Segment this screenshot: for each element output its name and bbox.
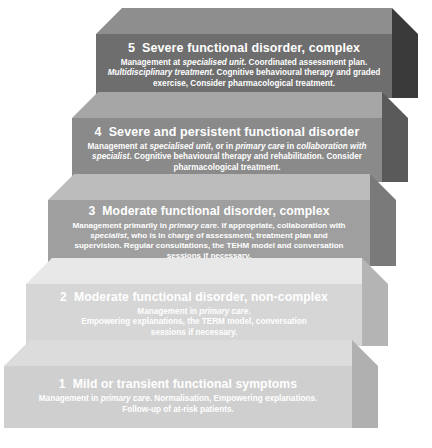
- step-5-front-face: 5Severe functional disorder, complex Man…: [96, 34, 392, 98]
- step-3-body: Management primarily in primary care. If…: [73, 221, 346, 261]
- step-5-body: Management at specialised unit. Coordina…: [108, 58, 381, 89]
- step-2-title-text: Moderate functional disorder, non-comple…: [74, 290, 328, 304]
- step-1-number: 1: [59, 377, 66, 391]
- step-3-top-face: [48, 174, 370, 200]
- step-4-title-text: Severe and persistent functional disorde…: [109, 125, 360, 139]
- step-2-title: 2Moderate functional disorder, non-compl…: [60, 290, 328, 304]
- step-4-side-face: [382, 92, 408, 182]
- step-1-body: Management in primary care. Normalisatio…: [39, 394, 317, 415]
- step-3-front-face: 3Moderate functional disorder, complex M…: [48, 200, 370, 266]
- step-3-number: 3: [88, 204, 95, 218]
- step-4-top-face: [72, 92, 382, 118]
- step-5-number: 5: [128, 41, 135, 55]
- step-2-front-face: 2Moderate functional disorder, non-compl…: [26, 284, 362, 346]
- step-2-body: Management in primary care.Empowering ex…: [81, 307, 307, 338]
- step-block-3: 3Moderate functional disorder, complex M…: [48, 200, 370, 266]
- step-block-2: 2Moderate functional disorder, non-compl…: [26, 284, 362, 346]
- step-5-side-face: [392, 8, 418, 98]
- step-1-title: 1Mild or transient functional symptoms: [59, 377, 297, 391]
- step-1-title-text: Mild or transient functional symptoms: [73, 377, 297, 391]
- step-2-side-face: [362, 258, 388, 346]
- stepped-care-diagram: 5Severe functional disorder, complex Man…: [0, 0, 432, 448]
- step-3-title-text: Moderate functional disorder, complex: [102, 204, 329, 218]
- step-5-top-face: [96, 8, 392, 34]
- step-4-title: 4Severe and persistent functional disord…: [95, 125, 360, 139]
- step-3-title: 3Moderate functional disorder, complex: [88, 204, 329, 218]
- step-block-4: 4Severe and persistent functional disord…: [72, 118, 382, 182]
- step-block-5: 5Severe functional disorder, complex Man…: [96, 34, 392, 98]
- step-2-number: 2: [60, 290, 67, 304]
- step-block-1: 1Mild or transient functional symptoms M…: [4, 366, 352, 428]
- step-1-side-face: [352, 340, 378, 428]
- step-4-body: Management at specialised unit, or in pr…: [88, 142, 367, 173]
- step-2-top-face: [26, 258, 362, 284]
- step-4-front-face: 4Severe and persistent functional disord…: [72, 118, 382, 182]
- step-1-front-face: 1Mild or transient functional symptoms M…: [4, 366, 352, 428]
- step-5-title-text: Severe functional disorder, complex: [142, 41, 360, 55]
- step-1-top-face: [4, 340, 352, 366]
- step-5-title: 5Severe functional disorder, complex: [128, 41, 360, 55]
- step-3-side-face: [370, 174, 396, 266]
- step-4-number: 4: [95, 125, 102, 139]
